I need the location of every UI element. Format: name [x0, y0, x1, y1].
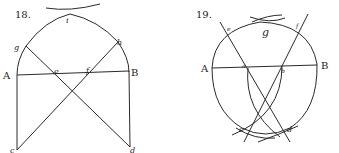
- line-ed: [220, 22, 290, 142]
- label-h: h: [117, 38, 122, 47]
- line-gd: [26, 46, 130, 147]
- label-c: c: [10, 146, 15, 153]
- label-c: c: [239, 125, 244, 134]
- label-g: g: [14, 43, 19, 52]
- label-A: A: [2, 70, 11, 81]
- label-A: A: [200, 63, 209, 74]
- figure-18: 18. i g h A B e f c d: [0, 0, 170, 153]
- label-f: f: [295, 22, 300, 30]
- line-hc: [17, 42, 118, 150]
- label-i: i: [66, 16, 69, 25]
- label-d: d: [130, 146, 135, 153]
- line-AB: [212, 65, 317, 68]
- label-f: f: [85, 66, 91, 75]
- arch-arc: [17, 14, 129, 75]
- figure-19: 19. g e f A B a b c d: [170, 0, 339, 153]
- label-b: b: [281, 67, 285, 74]
- line-Bd: [129, 71, 130, 147]
- label-e: e: [54, 67, 59, 76]
- figure-18-drawing: 18. i g h A B e f c d: [0, 0, 170, 153]
- arc-top-left: [46, 4, 100, 9]
- line-AB: [17, 71, 129, 75]
- figure-19-drawing: 19. g e f A B a b c d: [170, 0, 339, 153]
- label-B: B: [321, 60, 328, 71]
- label-a: a: [242, 62, 246, 69]
- label-B: B: [131, 67, 138, 78]
- label-e: e: [227, 25, 231, 32]
- label-d: d: [287, 125, 292, 134]
- figure-number: 18.: [15, 9, 31, 20]
- figure-number: 19.: [196, 9, 212, 20]
- label-g: g: [262, 26, 269, 39]
